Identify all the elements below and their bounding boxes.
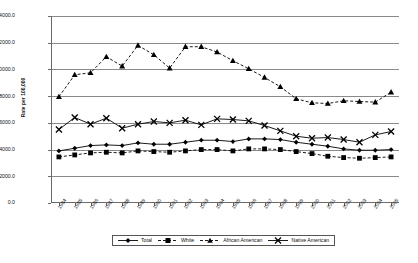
line-chart: Rate per 100,000 TotalWhiteAfrican Ameri… [0,0,418,263]
y-axis-tick-label: 8000.0 [0,94,15,99]
legend-item-native-american[interactable]: Native American [267,236,330,245]
legend-item-white[interactable]: White [157,236,195,245]
y-axis-tick-label: 10000.0 [0,67,15,72]
y-axis-tick-mark [48,123,51,124]
y-axis-title: Rate per 100,000 [21,53,26,143]
y-axis-tick-mark [48,176,51,177]
plot-area [51,16,399,203]
legend-label: Native American [290,238,330,243]
gridline [52,123,399,124]
y-axis-tick-mark [48,150,51,151]
gridline [52,43,399,44]
legend-item-total[interactable]: Total [117,236,153,245]
y-axis-tick-label: 0.0 [0,200,15,205]
triangle-icon [199,236,221,245]
x-icon [267,236,289,245]
y-axis-tick-label: 4000.0 [0,147,15,152]
gridline [52,96,399,97]
y-axis-tick-mark [48,96,51,97]
y-axis-tick-mark [48,69,51,70]
legend-item-african-american[interactable]: African American [199,236,263,245]
gridline [52,176,399,177]
diamond-icon [117,236,139,245]
y-axis-tick-label: 6000.0 [0,120,15,125]
y-axis-tick-mark [48,203,51,204]
y-axis-tick-label: 14000.0 [0,13,15,18]
y-axis-tick-label: 2000.0 [0,174,15,179]
chart-legend: TotalWhiteAfrican AmericanNative America… [112,235,335,246]
y-axis-tick-mark [48,16,51,17]
legend-label: African American [222,238,263,243]
gridline [52,69,399,70]
legend-label: Total [140,238,153,243]
gridline [52,16,399,17]
square-icon [157,236,179,245]
legend-label: White [180,238,195,243]
gridline [52,150,399,151]
y-axis-tick-mark [48,43,51,44]
y-axis-tick-label: 12000.0 [0,40,15,45]
